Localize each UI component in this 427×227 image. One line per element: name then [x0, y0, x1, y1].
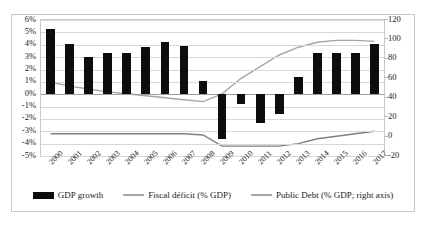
left-axis-tick-label: 1%: [10, 76, 36, 85]
left-axis-tick-label: -3%: [10, 126, 36, 135]
zero-axis-line: [41, 94, 384, 95]
left-axis-tick-label: 5%: [10, 27, 36, 36]
right-axis-tick-label: 20: [388, 112, 418, 121]
bar: [294, 77, 303, 94]
legend-label: Public Debt (% GDP; right axis): [276, 190, 393, 200]
left-axis-tick-label: 4%: [10, 39, 36, 48]
gridline: [41, 20, 384, 21]
left-axis-tick-label: 6%: [10, 15, 36, 24]
gridline: [41, 119, 384, 120]
legend-item-fiscal-deficit: Fiscal déficit (% GDP): [123, 190, 231, 200]
legend-item-gdp-growth: GDP growth: [33, 190, 103, 200]
bar-swatch-icon: [33, 192, 54, 199]
left-axis-tick-label: -2%: [10, 113, 36, 122]
bar: [313, 53, 322, 94]
gridline: [41, 32, 384, 33]
left-axis-tick-label: -1%: [10, 101, 36, 110]
bar: [370, 44, 379, 95]
bar: [351, 53, 360, 94]
bar: [46, 29, 55, 95]
left-axis-tick-label: -4%: [10, 138, 36, 147]
gridline: [41, 131, 384, 132]
right-axis-tick-label: 100: [388, 34, 418, 43]
bar: [256, 94, 265, 122]
left-axis-tick-label: 0%: [10, 89, 36, 98]
plot-area: [40, 19, 385, 157]
left-axis-tick-label: 3%: [10, 52, 36, 61]
line-swatch-icon: [251, 194, 272, 196]
legend-item-public-debt: Public Debt (% GDP; right axis): [251, 190, 393, 200]
bar: [275, 94, 284, 114]
gridline: [41, 144, 384, 145]
left-axis-tick-label: -5%: [10, 151, 36, 160]
bar: [84, 57, 93, 94]
right-axis-tick-label: 80: [388, 53, 418, 62]
bar: [103, 53, 112, 94]
right-axis-tick-label: -20: [388, 151, 418, 160]
bar: [161, 42, 170, 94]
bar: [237, 94, 246, 104]
line-public-debt: [51, 40, 375, 101]
right-axis-tick-label: 40: [388, 92, 418, 101]
bar: [332, 53, 341, 94]
right-axis-tick-label: 120: [388, 15, 418, 24]
chart-legend: GDP growth Fiscal déficit (% GDP) Public…: [11, 186, 415, 204]
bar: [199, 81, 208, 95]
right-axis-tick-label: 60: [388, 73, 418, 82]
bar: [122, 53, 131, 94]
right-axis-tick-label: 0: [388, 131, 418, 140]
legend-label: Fiscal déficit (% GDP): [148, 190, 231, 200]
legend-label: GDP growth: [58, 190, 103, 200]
gridline: [41, 45, 384, 46]
bar: [65, 44, 74, 95]
bar: [141, 47, 150, 94]
chart-container: 6%5%4%3%2%1%0%-1%-2%-3%-4%-5% 1201008060…: [0, 0, 427, 227]
bar: [180, 46, 189, 94]
left-axis-tick-label: 2%: [10, 64, 36, 73]
line-swatch-icon: [123, 194, 144, 196]
gridline: [41, 107, 384, 108]
bar: [218, 94, 227, 139]
